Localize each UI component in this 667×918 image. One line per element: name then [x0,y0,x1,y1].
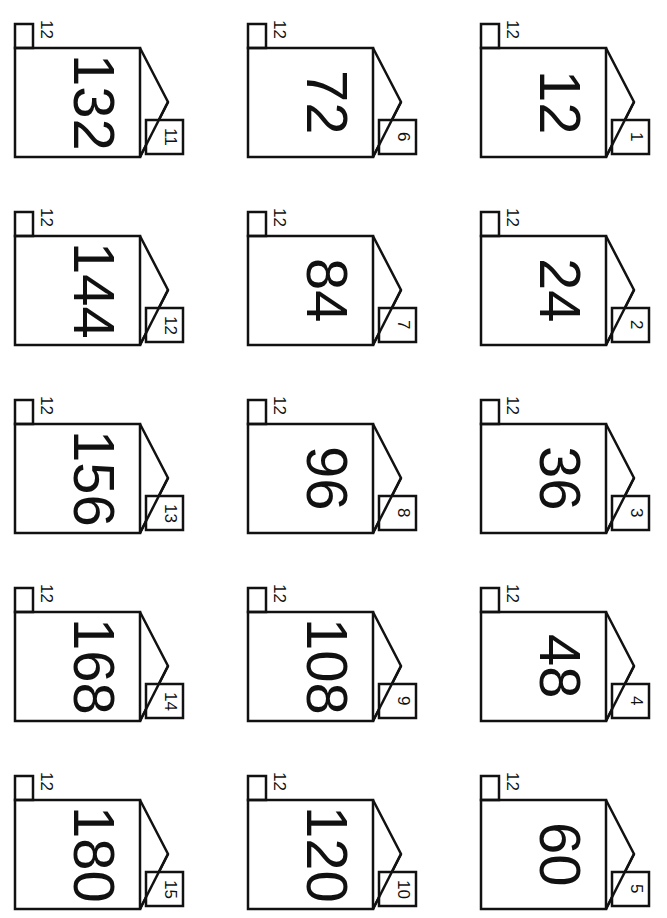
multiplier-label: 12 [38,584,55,603]
product-number: 156 [65,430,123,527]
door-number-input[interactable]: 8 [395,508,412,517]
door-number-input[interactable]: 10 [395,880,412,899]
multiplier-label: 12 [271,772,288,791]
multiplier-label: 12 [504,584,521,603]
product-number: 84 [298,258,356,323]
house-48: 12 48 4 [481,588,667,758]
house-120: 12 120 10 [248,776,448,918]
product-number: 12 [531,70,589,135]
house-156: 12 156 13 [15,400,215,570]
door-number-input[interactable]: 11 [162,128,179,146]
door-number-input[interactable]: 1 [628,132,645,141]
product-number: 48 [531,634,589,699]
product-number: 168 [65,618,123,715]
multiplier-label: 12 [504,772,521,791]
multiplier-label: 12 [504,396,521,415]
multiplier-label: 12 [38,396,55,415]
multiplier-label: 12 [38,20,55,39]
product-number: 120 [298,806,356,903]
house-72: 12 72 6 [248,24,448,194]
house-96: 12 96 8 [248,400,448,570]
door-number-input[interactable]: 14 [162,692,179,711]
door-number-input[interactable]: 3 [628,508,645,517]
multiplier-label: 12 [504,20,521,39]
product-number: 132 [65,54,123,151]
product-number: 144 [65,242,123,339]
product-number: 36 [531,446,589,511]
house-24: 12 24 2 [481,212,667,382]
house-180: 12 180 15 [15,776,215,918]
door-number-input[interactable]: 13 [162,504,179,523]
product-number: 108 [298,618,356,715]
door-number-input[interactable]: 15 [162,880,179,899]
product-number: 96 [298,446,356,511]
multiplier-label: 12 [38,208,55,227]
house-12: 12 12 1 [481,24,667,194]
house-60: 12 60 5 [481,776,667,918]
house-84: 12 84 7 [248,212,448,382]
product-number: 60 [531,822,589,887]
multiplier-label: 12 [271,584,288,603]
house-132: 12 132 11 [15,24,215,194]
multiplier-label: 12 [271,396,288,415]
house-36: 12 36 3 [481,400,667,570]
product-number: 72 [298,70,356,135]
multiplier-label: 12 [504,208,521,227]
house-168: 12 168 14 [15,588,215,758]
multiplier-label: 12 [271,208,288,227]
multiplier-label: 12 [271,20,288,39]
house-144: 12 144 12 [15,212,215,382]
product-number: 180 [65,806,123,903]
multiplier-label: 12 [38,772,55,791]
door-number-input[interactable]: 5 [628,884,645,893]
product-number: 24 [531,258,589,323]
door-number-input[interactable]: 12 [162,316,179,335]
house-108: 12 108 9 [248,588,448,758]
door-number-input[interactable]: 9 [395,696,412,705]
door-number-input[interactable]: 4 [628,696,645,705]
door-number-input[interactable]: 7 [395,320,412,329]
door-number-input[interactable]: 6 [395,132,412,141]
door-number-input[interactable]: 2 [628,320,645,329]
